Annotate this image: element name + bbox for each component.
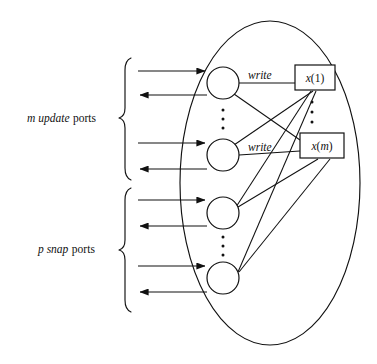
update-ports-label: m updateports <box>27 112 97 125</box>
edge-proc4-x1 <box>238 91 316 272</box>
snap-ports-label-italic: p snap <box>37 243 69 256</box>
port-arrows-update <box>138 71 207 169</box>
register-label-xm: x(m) <box>310 140 332 153</box>
process-node-1 <box>207 67 239 99</box>
register-label-x1: x(1) <box>305 72 325 85</box>
update-ports-label-italic: m update <box>27 112 69 125</box>
write-label-2: write <box>248 141 272 153</box>
process-node-2 <box>207 139 239 171</box>
edge-proc1-xm <box>234 94 300 140</box>
process-node-3 <box>207 197 239 229</box>
object-diagram-svg: m updateports p snapports <box>0 0 377 364</box>
connection-lines <box>234 83 330 272</box>
brace-snap-ports <box>119 188 131 312</box>
diagram-canvas: m updateports p snapports <box>0 0 377 364</box>
snap-ports-label: p snapports <box>37 243 95 256</box>
brace-update-ports <box>119 58 131 180</box>
write-label-1: write <box>248 69 272 81</box>
ellipsis-processes-snap <box>222 236 225 257</box>
snap-ports-label-plain: ports <box>72 243 96 256</box>
ellipsis-processes-update <box>222 109 225 130</box>
update-ports-label-plain: ports <box>73 112 97 125</box>
process-node-4 <box>207 262 239 294</box>
edge-proc3-xm <box>238 159 318 207</box>
edge-proc4-xm <box>239 159 330 272</box>
